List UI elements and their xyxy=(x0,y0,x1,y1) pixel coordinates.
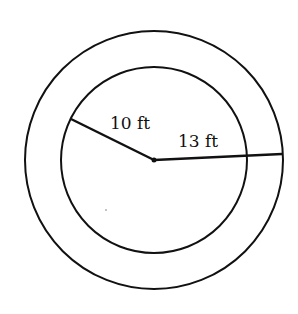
stray-dot xyxy=(105,209,107,211)
concentric-circles-diagram: 10 ft 13 ft xyxy=(0,0,298,314)
outer-radius-label: 13 ft xyxy=(178,131,218,151)
inner-radius-label: 10 ft xyxy=(110,113,150,133)
center-point xyxy=(152,158,157,163)
outer-radius-line xyxy=(154,154,282,160)
